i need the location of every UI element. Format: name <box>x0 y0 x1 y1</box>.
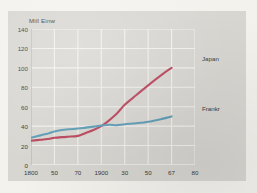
y-tick-100: 100 <box>18 64 28 71</box>
y-tick-60: 60 <box>21 103 28 110</box>
y-tick-120: 120 <box>18 45 28 52</box>
series-label-japan: Japan <box>202 55 219 62</box>
y-tick-80: 80 <box>21 84 28 91</box>
y-axis-title: Mill Einw <box>29 17 55 24</box>
x-tick-1800: 1800 <box>24 169 38 176</box>
x-tick-1900: 1900 <box>94 169 108 176</box>
series-lines <box>31 29 195 165</box>
y-tick-140: 140 <box>18 26 28 33</box>
x-tick-50: 50 <box>51 169 58 176</box>
plot-area <box>31 29 195 165</box>
x-tick-50: 50 <box>145 169 152 176</box>
series-line-japan <box>31 68 172 141</box>
x-axis-tick-labels: 18005070190030506780 <box>31 169 195 181</box>
x-tick-80: 80 <box>192 169 199 176</box>
y-axis-tick-labels: 140120100806040200 <box>8 29 28 165</box>
series-label-frankr: Frankr <box>202 105 220 112</box>
y-tick-0: 0 <box>25 162 28 169</box>
chart-page: Mill Einw 140120100806040200 18005070190… <box>0 0 257 193</box>
y-tick-20: 20 <box>21 142 28 149</box>
x-tick-70: 70 <box>74 169 81 176</box>
x-tick-67: 67 <box>168 169 175 176</box>
y-tick-40: 40 <box>21 123 28 130</box>
x-tick-30: 30 <box>121 169 128 176</box>
